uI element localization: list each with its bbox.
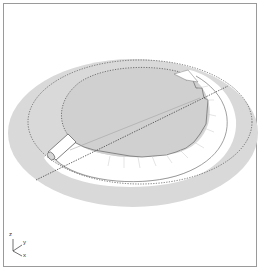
axis-x-label: x [23,252,26,258]
axis-y-label: y [23,239,26,245]
axis-z-label: z [9,231,12,237]
diagram-canvas [0,0,261,274]
inner-disc [61,67,208,157]
axis-triad [13,239,22,256]
